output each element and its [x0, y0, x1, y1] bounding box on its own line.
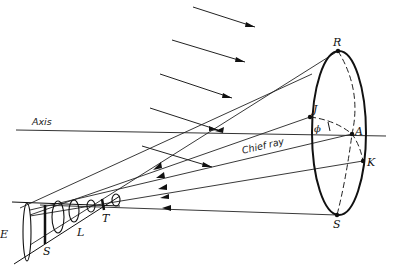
stop-T — [102, 199, 104, 210]
incident-ray-4 — [150, 108, 218, 130]
point-A — [350, 132, 354, 136]
label-L: L — [77, 227, 84, 238]
label-J: J — [313, 104, 317, 115]
point-R — [336, 49, 340, 53]
point-J — [308, 115, 312, 119]
incident-ray-3 — [160, 74, 232, 98]
axis-label: Axis — [32, 117, 52, 127]
label-T: T — [102, 213, 109, 224]
phi-angle-mark — [328, 122, 330, 131]
label-S-aperture: S — [333, 219, 341, 230]
label-K: K — [367, 157, 375, 168]
incident-ray-2 — [172, 40, 245, 62]
label-S-stop: S — [43, 246, 51, 257]
label-phi: ϕ — [314, 124, 321, 134]
ray-arrowheads — [153, 127, 224, 211]
diagram-stage: Axis Chief ray R J A K S ϕ E S L T — [0, 0, 396, 268]
lens-L — [69, 200, 79, 222]
label-A: A — [355, 126, 363, 137]
optical-axis-line — [16, 130, 386, 136]
label-E: E — [0, 229, 8, 240]
point-S — [335, 213, 339, 217]
point-K — [361, 159, 365, 163]
incident-rays — [142, 7, 255, 167]
label-R: R — [333, 37, 341, 48]
eye-lens-E — [23, 203, 31, 261]
